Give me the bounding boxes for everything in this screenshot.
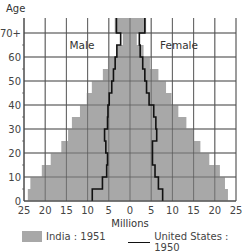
population-pyramid-chart: 010203040506070+ 2520151050510152025 Age…	[0, 0, 242, 252]
y-axis-title: Age	[6, 3, 25, 14]
bar-india-male-55-60	[108, 57, 130, 69]
bar-india-male-15-20	[51, 153, 130, 165]
x-tick-label: 10	[81, 205, 94, 216]
x-tick-label: 15	[187, 205, 200, 216]
x-tick-labels: 2520151050510152025	[18, 205, 242, 216]
bar-india-female-15-20	[130, 153, 209, 165]
x-tick-label: 15	[60, 205, 73, 216]
bar-india-female-60-65	[130, 45, 144, 57]
bar-india-female-5-10	[130, 177, 225, 189]
x-tick-label: 25	[230, 205, 242, 216]
x-tick-label: 0	[127, 205, 133, 216]
x-tick-label: 20	[39, 205, 52, 216]
bar-india-male-0-5	[28, 189, 130, 201]
x-tick-label: 10	[166, 205, 179, 216]
x-tick-label: 5	[148, 205, 154, 216]
female-label: Female	[160, 39, 198, 51]
bar-india-male-40-45	[87, 93, 130, 105]
legend-swatch-india	[22, 231, 42, 242]
bar-india-female-10-15	[130, 165, 220, 177]
bar-india-female-55-60	[130, 57, 150, 69]
bar-india-male-50-55	[103, 69, 130, 81]
male-label: Male	[70, 39, 95, 51]
bar-india-male-30-35	[72, 117, 130, 129]
y-tick-label: 70+	[0, 28, 21, 39]
y-tick-label: 60	[8, 52, 21, 63]
y-tick-labels: 010203040506070+	[0, 28, 21, 207]
bar-india-male-25-30	[68, 129, 130, 141]
bar-india-male-65-70	[123, 33, 130, 45]
y-tick-label: 40	[8, 100, 21, 111]
y-tick-label: 20	[8, 148, 21, 159]
x-tick-label: 5	[106, 205, 112, 216]
x-tick-label: 20	[208, 205, 221, 216]
bar-india-male-10-15	[42, 165, 130, 177]
y-tick-label: 30	[8, 124, 21, 135]
bar-india-female-0-5	[130, 189, 228, 201]
bar-india-male-20-25	[61, 141, 130, 153]
x-axis-title: Millions	[111, 218, 148, 229]
bar-india-female-65-70	[130, 33, 137, 45]
bar-india-female-40-45	[130, 93, 172, 105]
y-tick-label: 10	[8, 172, 21, 183]
india-bars	[24, 18, 236, 201]
bar-india-male-60-65	[117, 45, 130, 57]
bar-india-female-20-25	[130, 141, 200, 153]
bar-india-female-70+	[130, 18, 146, 33]
legend-item-us: United States : 1950	[128, 231, 242, 252]
x-tick-label: 25	[18, 205, 31, 216]
bar-india-female-45-50	[130, 81, 166, 93]
legend-line-us	[128, 242, 150, 243]
bar-india-female-25-30	[130, 129, 193, 141]
y-tick-label: 50	[8, 76, 21, 87]
legend-label-us: United States : 1950	[154, 231, 242, 252]
bar-india-female-30-35	[130, 117, 186, 129]
legend: India : 1951 United States : 1950	[0, 231, 242, 247]
legend-item-india: India : 1951	[22, 231, 106, 242]
bar-india-male-45-50	[92, 81, 130, 93]
legend-label-india: India : 1951	[46, 231, 106, 242]
